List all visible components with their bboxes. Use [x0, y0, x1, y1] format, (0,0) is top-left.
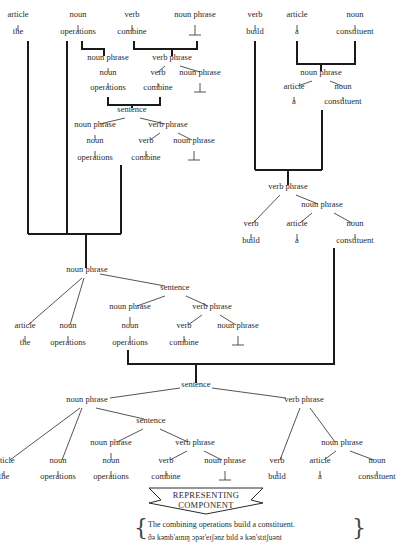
- tree-node-verb: verb: [158, 455, 173, 465]
- tree-node-noun-phrase: noun phrase: [174, 9, 215, 19]
- tree-node-noun-phrase: noun phrase: [87, 52, 128, 62]
- tree-node-noun: noun: [100, 67, 117, 77]
- tree-node-a: a: [295, 26, 299, 36]
- tree-node-verb: verb: [243, 218, 258, 228]
- tree-node-article: article: [286, 9, 307, 19]
- tree-node-operations: operations: [77, 152, 112, 162]
- tree-node-noun-phrase: noun phrase: [90, 437, 131, 447]
- tree-node-noun: noun: [50, 455, 67, 465]
- tree-node-noun-phrase: noun phrase: [321, 437, 362, 447]
- tree-node-verb: verb: [269, 455, 284, 465]
- tree-node-noun: noun: [347, 9, 364, 19]
- tree-node-article: article: [286, 218, 307, 228]
- tree-node-noun: noun: [87, 135, 104, 145]
- tree-node-noun-phrase: noun phrase: [173, 135, 214, 145]
- tree-node-article: article: [14, 320, 35, 330]
- tree-node-combine: combine: [143, 82, 172, 92]
- left-brace: {: [134, 517, 148, 539]
- tree-node-article: article: [309, 455, 330, 465]
- tree-node-operations: operations: [40, 471, 75, 481]
- tree-node-noun-phrase: noun phrase: [301, 199, 342, 209]
- banner-line-1: REPRESENTING: [148, 490, 264, 500]
- tree-node-a: a: [295, 235, 299, 245]
- tree-node-verb: verb: [247, 9, 262, 19]
- tree-node-noun: noun: [369, 455, 386, 465]
- tree-node-noun-phrase: noun phrase: [66, 394, 107, 404]
- tree-node-noun-phrase: noun phrase: [74, 119, 115, 129]
- tree-node-verb: verb: [138, 135, 153, 145]
- tree-node-constituent: constituent: [324, 96, 361, 106]
- tree-node-noun-phrase: noun phrase: [217, 320, 258, 330]
- tree-node-operations: operations: [90, 82, 125, 92]
- tree-node-the: the: [0, 471, 9, 481]
- tree-node-build: build: [242, 235, 259, 245]
- tree-node-a: a: [318, 471, 322, 481]
- tree-node-noun: noun: [103, 455, 120, 465]
- tree-node-article: article: [283, 81, 304, 91]
- tree-node-noun: noun: [70, 9, 87, 19]
- output-sentence: The combining operations build a constit…: [148, 520, 328, 530]
- tree-node-constituent: constituent: [336, 26, 373, 36]
- tree-node-verb-phrase: verb phrase: [192, 301, 231, 311]
- banner-line-2: COMPONENT: [148, 500, 264, 510]
- tree-node-noun-phrase: noun phrase: [109, 301, 150, 311]
- tree-node-noun: noun: [60, 320, 77, 330]
- tree-node-build: build: [246, 26, 263, 36]
- tree-node-sentence: sentence: [160, 282, 189, 292]
- tree-node-verb-phrase: verb phrase: [152, 52, 191, 62]
- tree-node-operations: operations: [93, 471, 128, 481]
- tree-node-constituent: constituent: [358, 471, 395, 481]
- tree-node-noun-phrase: noun phrase: [204, 455, 245, 465]
- tree-node-noun: noun: [122, 320, 139, 330]
- tree-node-noun-phrase: noun phrase: [66, 264, 107, 274]
- syntax-tree-diagram: articlethenounoperationsverbcombinenoun …: [0, 0, 409, 553]
- tree-node-verb: verb: [124, 9, 139, 19]
- tree-node-verb: verb: [150, 67, 165, 77]
- tree-node-a: a: [292, 96, 296, 106]
- tree-node-the: the: [20, 337, 30, 347]
- tree-node-noun-phrase: noun phrase: [300, 67, 341, 77]
- tree-node-verb-phrase: verb phrase: [268, 181, 307, 191]
- output-phonetic: ðə kəmb'aɪnɪŋ ɔpər'eɪʃənz bɪld ə kən'stɪ…: [148, 533, 328, 543]
- tree-node-operations: operations: [60, 26, 95, 36]
- tree-node-noun: noun: [347, 218, 364, 228]
- tree-node-combine: combine: [117, 26, 146, 36]
- right-brace: }: [352, 517, 366, 539]
- representing-component-banner: REPRESENTING COMPONENT: [148, 487, 264, 515]
- tree-node-article: article: [0, 455, 15, 465]
- tree-node-verb-phrase: verb phrase: [175, 437, 214, 447]
- tree-node-verb-phrase: verb phrase: [148, 119, 187, 129]
- tree-node-verb: verb: [176, 320, 191, 330]
- tree-node-noun-phrase: noun phrase: [179, 67, 220, 77]
- tree-node-verb-phrase: verb phrase: [284, 394, 323, 404]
- tree-node-noun: noun: [335, 81, 352, 91]
- tree-node-operations: operations: [50, 337, 85, 347]
- tree-node-build: build: [268, 471, 285, 481]
- tree-node-combine: combine: [131, 152, 160, 162]
- tree-node-combine: combine: [151, 471, 180, 481]
- tree-node-the: the: [13, 26, 23, 36]
- tree-node-sentence: sentence: [117, 104, 146, 114]
- tree-node-constituent: constituent: [336, 235, 373, 245]
- tree-node-operations: operations: [112, 337, 147, 347]
- tree-node-sentence: sentence: [181, 379, 210, 389]
- tree-node-sentence: sentence: [136, 415, 165, 425]
- tree-node-article: article: [7, 9, 28, 19]
- tree-node-combine: combine: [169, 337, 198, 347]
